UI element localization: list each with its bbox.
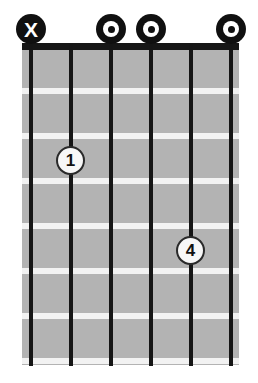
string-3[interactable] <box>149 44 153 366</box>
x-icon: X <box>24 19 38 40</box>
fret-line <box>22 223 239 229</box>
open-string-marker-4[interactable] <box>96 14 126 44</box>
fret-line <box>22 133 239 139</box>
finger-number-label: 1 <box>66 152 75 169</box>
string-4[interactable] <box>109 44 113 366</box>
string-6[interactable] <box>29 44 33 366</box>
o-icon-center <box>228 26 235 33</box>
string-2[interactable] <box>189 44 193 366</box>
o-icon <box>223 21 239 37</box>
fret-line <box>22 268 239 274</box>
string-1[interactable] <box>229 44 233 366</box>
fret-line <box>22 313 239 319</box>
muted-string-marker-6[interactable]: X <box>16 14 46 44</box>
finger-number-label: 4 <box>186 242 195 259</box>
o-icon <box>143 21 159 37</box>
fret-line <box>22 358 239 364</box>
o-icon-center <box>108 26 115 33</box>
chord-diagram: X 1 4 <box>0 0 258 383</box>
o-icon <box>103 21 119 37</box>
o-icon-center <box>148 26 155 33</box>
open-string-marker-3[interactable] <box>136 14 166 44</box>
string-5[interactable] <box>69 44 73 366</box>
finger-marker-4[interactable]: 4 <box>176 236 205 265</box>
open-string-marker-1[interactable] <box>216 14 246 44</box>
fret-line <box>22 178 239 184</box>
finger-marker-1[interactable]: 1 <box>56 146 85 175</box>
fret-line <box>22 88 239 94</box>
nut-bar <box>22 43 239 50</box>
